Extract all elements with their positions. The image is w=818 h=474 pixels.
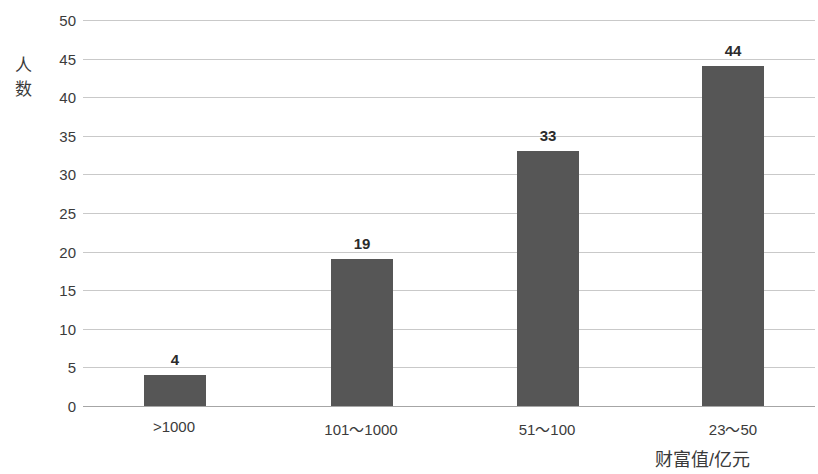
y-axis-title-char-1: 人 <box>10 54 36 78</box>
y-tick-label: 35 <box>38 127 76 144</box>
bar[interactable] <box>702 66 764 406</box>
y-tick-label: 30 <box>38 166 76 183</box>
y-tick-label: 50 <box>38 12 76 29</box>
bar-data-label: 19 <box>317 235 407 252</box>
y-axis-title: 人 数 <box>10 54 36 102</box>
axis-baseline <box>83 406 815 407</box>
y-tick-label: 20 <box>38 243 76 260</box>
bar-data-label: 4 <box>130 351 220 368</box>
x-tick-label: >1000 <box>94 418 254 435</box>
x-tick-label: 51～100 <box>467 418 627 439</box>
x-axis-title: 财富值/亿元 <box>655 445 750 471</box>
bar[interactable] <box>331 259 393 406</box>
bar[interactable] <box>144 375 206 406</box>
y-axis-tick-labels: 50 45 40 35 30 25 20 15 10 5 0 <box>38 0 76 474</box>
x-tick-label: 101～1000 <box>281 418 441 439</box>
bar-data-label: 33 <box>503 127 593 144</box>
y-tick-label: 5 <box>38 359 76 376</box>
x-tick-label: 23～50 <box>653 418 813 439</box>
y-tick-label: 25 <box>38 205 76 222</box>
y-tick-label: 45 <box>38 50 76 67</box>
y-tick-label: 40 <box>38 89 76 106</box>
y-tick-label: 10 <box>38 320 76 337</box>
bar[interactable] <box>517 151 579 406</box>
y-tick-label: 0 <box>38 398 76 415</box>
y-axis-title-char-2: 数 <box>10 78 36 102</box>
y-tick-label: 15 <box>38 282 76 299</box>
gridline <box>83 20 815 21</box>
bar-data-label: 44 <box>688 42 778 59</box>
plot-area: 4 19 33 44 <box>83 20 815 406</box>
bar-chart-screenshot: 人 数 50 45 40 35 30 25 20 15 10 5 0 4 19 … <box>0 0 818 474</box>
